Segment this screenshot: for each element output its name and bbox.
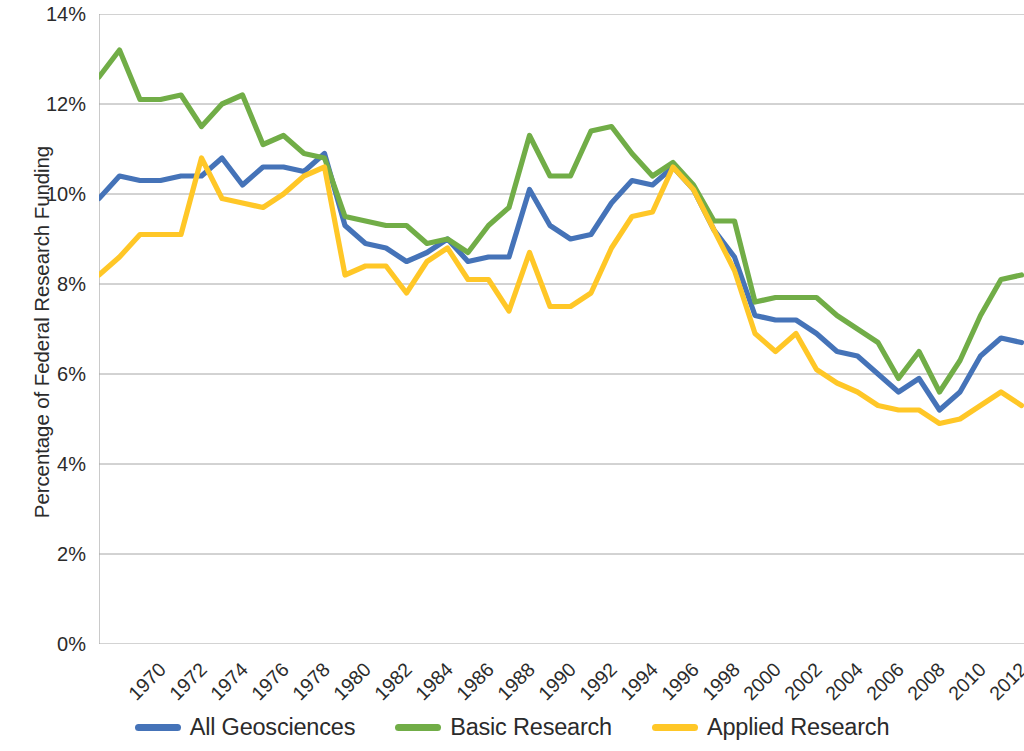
x-axis-tick-label: 1986	[452, 658, 499, 705]
x-axis-tick-label: 1988	[493, 658, 540, 705]
x-axis-tick-label: 1998	[698, 658, 745, 705]
x-axis-tick-label: 2000	[739, 658, 786, 705]
x-axis-tick-label: 1970	[124, 658, 171, 705]
line-chart: Percentage of Federal Research Funding 1…	[0, 0, 1024, 751]
x-axis-tick-label: 2008	[903, 658, 950, 705]
x-axis-tick-label: 1994	[616, 658, 663, 705]
x-axis-tick-label: 2002	[780, 658, 827, 705]
y-axis-tick-label: 6%	[28, 363, 86, 386]
legend-label: Applied Research	[707, 714, 889, 741]
y-axis-tick-label: 12%	[28, 93, 86, 116]
x-axis-tick-label: 1974	[206, 658, 253, 705]
legend-color-swatch	[652, 724, 698, 731]
series-line-applied-research	[99, 158, 1022, 424]
x-axis-tick-label: 1992	[575, 658, 622, 705]
chart-legend: All GeosciencesBasic ResearchApplied Res…	[0, 714, 1024, 741]
y-axis-tick-label: 10%	[28, 183, 86, 206]
legend-color-swatch	[395, 724, 441, 731]
x-axis-tick-label: 2006	[862, 658, 909, 705]
plot-svg	[99, 14, 1024, 644]
x-axis-tick-label: 1990	[534, 658, 581, 705]
x-axis-tick-label: 1982	[370, 658, 417, 705]
x-axis-tick-label: 2012	[985, 658, 1024, 705]
y-axis-tick-label: 4%	[28, 453, 86, 476]
plot-area	[99, 14, 1024, 644]
x-axis-tick-label: 1984	[411, 658, 458, 705]
y-axis-tick-label: 14%	[28, 3, 86, 26]
x-axis-tick-label: 1972	[165, 658, 212, 705]
legend-color-swatch	[135, 724, 181, 731]
legend-label: Basic Research	[450, 714, 612, 741]
y-axis-tick-label: 8%	[28, 273, 86, 296]
x-axis-tick-label: 2004	[821, 658, 868, 705]
legend-item[interactable]: Applied Research	[652, 714, 889, 741]
x-axis-tick-label: 1976	[247, 658, 294, 705]
series-line-basic-research	[99, 50, 1022, 392]
legend-item[interactable]: Basic Research	[395, 714, 612, 741]
y-axis-tick-label: 2%	[28, 543, 86, 566]
x-axis-tick-label: 1980	[329, 658, 376, 705]
legend-item[interactable]: All Geosciences	[135, 714, 356, 741]
x-axis-tick-label: 1978	[288, 658, 335, 705]
legend-label: All Geosciences	[190, 714, 356, 741]
x-axis-tick-label: 1996	[657, 658, 704, 705]
y-axis-tick-label: 0%	[28, 633, 86, 656]
y-axis-tick-labels: 14%12%10%8%6%4%2%0%	[28, 0, 86, 751]
x-axis-tick-label: 2010	[944, 658, 991, 705]
series-line-all-geosciences	[99, 154, 1022, 411]
